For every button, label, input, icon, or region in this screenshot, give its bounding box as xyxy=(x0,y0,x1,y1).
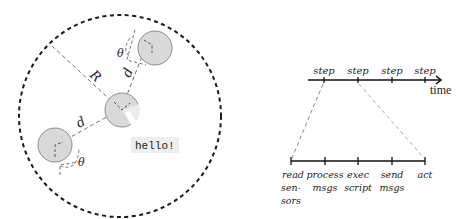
agent-top-right xyxy=(138,31,172,65)
step-label-3: step xyxy=(381,65,403,76)
step-label-2: step xyxy=(347,65,369,76)
distance-label-left: d xyxy=(73,113,87,130)
phase-read-sensors-line1: read xyxy=(282,169,304,180)
angle-label-left: θ xyxy=(78,156,85,169)
phase-send-msgs-line2: msgs xyxy=(380,182,405,193)
swarm-diagram: R d d θ θ hello! xyxy=(19,15,221,217)
timeline-diagram: step step step step time read sen- sors … xyxy=(281,65,451,206)
phase-process-msgs-line2: msgs xyxy=(313,182,338,193)
phase-read-sensors-line3: sors xyxy=(281,195,301,206)
phase-exec-script-line1: exec xyxy=(347,169,370,180)
phase-act-line1: act xyxy=(418,169,433,180)
step-label-1: step xyxy=(313,65,335,76)
angle-guide-left xyxy=(60,162,78,175)
phase-send-msgs-line1: send xyxy=(381,169,404,180)
time-axis-label: time xyxy=(430,83,451,97)
step-label-4: step xyxy=(414,65,436,76)
phase-exec-script-line2: script xyxy=(344,182,372,193)
radius-guide-line xyxy=(52,46,118,107)
zoom-projection-left xyxy=(292,84,323,158)
distance-label-top: d xyxy=(119,66,136,79)
phase-process-msgs-line1: process xyxy=(306,169,343,180)
figure-canvas: R d d θ θ hello! step step step step tim… xyxy=(0,0,467,219)
angle-label-top: θ xyxy=(117,47,124,60)
message-bubble-text: hello! xyxy=(135,140,175,152)
phase-read-sensors-line2: sen- xyxy=(281,182,301,193)
radius-label: R xyxy=(86,66,104,85)
zoom-projection-right xyxy=(359,84,424,158)
